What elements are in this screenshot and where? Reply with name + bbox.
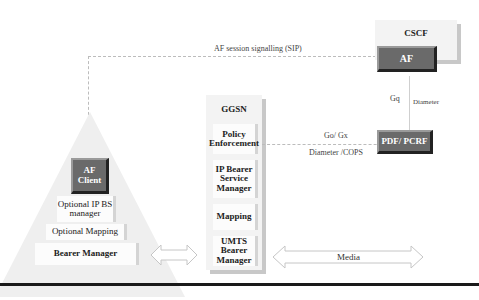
af-client-box: AF Client [71, 158, 109, 194]
ggsn-title: GGSN [206, 104, 262, 114]
media-label: Media [337, 252, 360, 262]
signalling-line [88, 56, 396, 57]
af-client-label: AF Client [75, 166, 105, 186]
af-box: AF [377, 46, 437, 72]
gq-label: Gq [390, 94, 400, 103]
diameter-cops-label: Diameter /COPS [309, 148, 363, 157]
go-gx-label: Go/ Gx [324, 131, 348, 140]
pdf-pcrf-box: PDF/ PCRF [377, 130, 433, 154]
ggsn-cell-policy-enforcement: Policy Enforcement [213, 124, 255, 154]
ue-ggsn-arrow [150, 243, 198, 267]
gq-diameter-label: Diameter [413, 98, 439, 106]
ggsn-cell-mapping: Mapping [213, 204, 255, 230]
bottom-rule [0, 283, 479, 286]
ue-cell-optional-ip-bs: Optional IP BS manager [57, 196, 113, 222]
ggsn-cell-umts-bearer-manager: UMTS Bearer Manager [213, 236, 255, 266]
ue-cell-bearer-manager: Bearer Manager [35, 243, 136, 265]
ggsn-cell-ip-bearer-service-manager: IP Bearer Service Manager [213, 160, 255, 198]
ue-cell-optional-mapping: Optional Mapping [46, 224, 124, 240]
signalling-label: AF session signalling (SIP) [214, 44, 302, 53]
gq-line [409, 76, 410, 130]
cscf-title: CSCF [375, 28, 457, 38]
